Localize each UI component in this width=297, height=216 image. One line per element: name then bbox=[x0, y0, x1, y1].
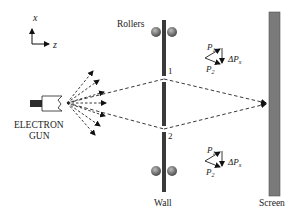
svg-text:P1: P1 bbox=[206, 42, 216, 53]
svg-text:ΔPx: ΔPx bbox=[227, 157, 242, 168]
delta-px-label: ΔP bbox=[227, 54, 239, 64]
svg-text:P1: P1 bbox=[206, 145, 216, 156]
slit-1-label: 1 bbox=[168, 66, 173, 76]
axes-icon: x z bbox=[32, 12, 57, 50]
electron-gun-icon bbox=[30, 96, 62, 111]
screen bbox=[269, 12, 280, 196]
rollers-label: Rollers bbox=[117, 19, 145, 29]
screen-label: Screen bbox=[259, 198, 285, 208]
momentum-diagram-top: P1 P2 ΔPx bbox=[205, 42, 242, 75]
svg-text:ΔPx: ΔPx bbox=[227, 54, 242, 65]
svg-text:P2: P2 bbox=[205, 167, 215, 178]
svg-text:P2: P2 bbox=[205, 64, 215, 75]
gun-label-line1: ELECTRON bbox=[14, 120, 64, 130]
wall-label: Wall bbox=[154, 198, 172, 208]
axis-z-label: z bbox=[52, 39, 57, 50]
electron-spray bbox=[67, 71, 106, 135]
momentum-diagram-bottom: P1 P2 ΔPx bbox=[205, 145, 242, 178]
gun-label-line2: GUN bbox=[29, 131, 50, 141]
axis-x-label: x bbox=[32, 12, 38, 23]
wall bbox=[162, 20, 166, 192]
diagram-canvas: x z ELECTRON GUN 1 2 Rollers Wa bbox=[0, 0, 297, 216]
slit-2-label: 2 bbox=[168, 131, 173, 141]
electron-paths bbox=[67, 79, 266, 129]
